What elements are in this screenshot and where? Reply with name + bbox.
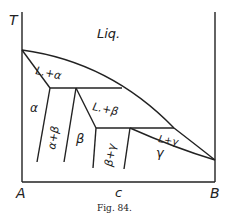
axis-label-a: A	[15, 185, 26, 201]
region-alpha: α	[30, 101, 38, 115]
region-liquid: Liq.	[97, 26, 120, 41]
axis-label-c: c	[115, 185, 122, 200]
alpha-solvus	[37, 88, 50, 162]
gamma-solvus	[124, 128, 130, 169]
axis-label-t: T	[9, 12, 19, 28]
region-alpha-beta: α+β	[45, 125, 62, 150]
figure-caption: Fig. 84.	[97, 203, 132, 213]
region-beta-gamma: β+γ	[102, 142, 119, 168]
region-gamma: γ	[156, 145, 165, 160]
region-l-alpha: L.+α	[34, 64, 63, 82]
phase-diagram: T Liq. L.+α α α+β L.+β β β+γ L+γ γ A c B…	[0, 0, 229, 219]
region-l-beta: L.+β	[91, 100, 119, 118]
beta-solvus	[93, 128, 96, 168]
region-beta: β	[75, 131, 84, 146]
alpha-beta-boundary	[64, 88, 76, 162]
axis-label-b: B	[210, 185, 220, 201]
